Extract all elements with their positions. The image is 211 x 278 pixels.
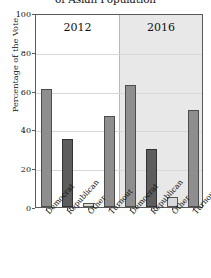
chart-title: of Asian Population: [0, 0, 211, 5]
y-tick-mark: [32, 208, 35, 209]
bar: [188, 110, 199, 207]
y-tick-label: 100: [16, 10, 31, 19]
panel-label-2012: 2012: [36, 21, 119, 34]
x-axis-labels: DemocratRepublicanOtherTurnoutDemocratRe…: [35, 210, 203, 276]
y-tick-label: 60: [21, 87, 31, 96]
bar: [104, 116, 115, 207]
y-tick-label: 20: [21, 165, 31, 174]
gridline: [36, 93, 202, 94]
y-tick-label: 0: [26, 204, 31, 213]
bar: [41, 89, 52, 207]
gridline: [36, 170, 202, 171]
y-tick-label: 80: [21, 48, 31, 57]
panel-label-2016: 2016: [120, 21, 202, 34]
y-axis-label: Percentage of the Vote: [10, 10, 20, 120]
y-tick-label: 40: [21, 126, 31, 135]
gridline: [36, 54, 202, 55]
gridline: [36, 131, 202, 132]
chart-container: of Asian Population Percentage of the Vo…: [0, 0, 211, 278]
